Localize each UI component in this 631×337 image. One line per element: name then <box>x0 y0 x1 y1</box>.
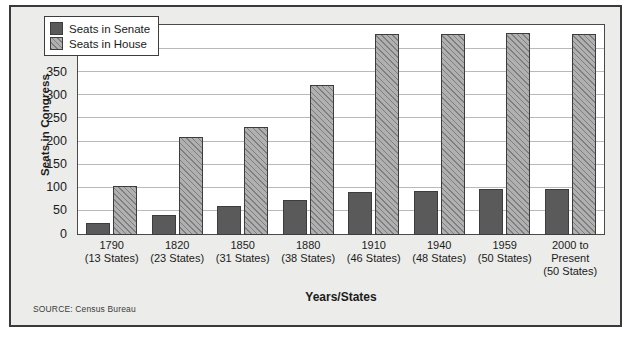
x-axis-tick-label-line: 2000 to <box>538 239 604 252</box>
x-axis-tick-label-line: 1850 <box>210 239 276 252</box>
x-axis-title: Years/States <box>77 290 605 304</box>
x-axis-tick-labels: 1790(13 States)1820(23 States)1850(31 St… <box>77 239 605 278</box>
chart-card: Seats in Congress 4504003503002502001501… <box>9 5 622 327</box>
x-axis-tick-label-line: (48 States) <box>407 252 473 265</box>
y-axis-tick-label: 350 <box>46 65 67 79</box>
bar-house[interactable] <box>179 137 203 235</box>
bar-senate[interactable] <box>86 223 110 235</box>
x-axis-tick-label: 1910(46 States) <box>341 239 407 278</box>
chart-legend: Seats in SenateSeats in House <box>44 16 159 56</box>
x-axis-tick-label-line: (38 States) <box>276 252 342 265</box>
bar-senate[interactable] <box>414 191 438 235</box>
y-axis-tick-label: 100 <box>46 180 67 194</box>
x-axis-tick-label: 1790(13 States) <box>79 239 145 278</box>
bar-senate[interactable] <box>217 206 241 235</box>
y-axis-tick-label: 150 <box>46 157 67 171</box>
x-axis-tick-label-line: (23 States) <box>145 252 211 265</box>
bar-house[interactable] <box>310 85 334 235</box>
x-axis-tick-label-line: (50 States) <box>538 265 604 278</box>
legend-item[interactable]: Seats in House <box>50 36 150 51</box>
y-axis-tick-label: 250 <box>46 111 67 125</box>
bar-senate[interactable] <box>152 215 176 235</box>
x-axis-tick-label: 1940(48 States) <box>407 239 473 278</box>
x-axis-tick-label-line: Present <box>538 252 604 265</box>
x-axis-tick-label: 1820(23 States) <box>145 239 211 278</box>
x-axis-tick-label-line: (13 States) <box>79 252 145 265</box>
bar-senate[interactable] <box>348 192 372 235</box>
x-axis-tick-label: 1959(50 States) <box>472 239 538 278</box>
x-axis-tick-label-line: 1820 <box>145 239 211 252</box>
x-axis-tick-label-line: 1910 <box>341 239 407 252</box>
x-axis-tick-label-line: 1959 <box>472 239 538 252</box>
bar-house[interactable] <box>375 34 399 235</box>
legend-swatch-house-icon <box>50 37 63 50</box>
y-axis-tick-label: 50 <box>53 203 67 217</box>
x-axis-tick-label: 2000 toPresent(50 States) <box>538 239 604 278</box>
chart-screenshot: Seats in Congress 4504003503002502001501… <box>0 0 631 337</box>
legend-item[interactable]: Seats in Senate <box>50 21 150 36</box>
legend-label: Seats in House <box>69 38 147 50</box>
x-axis-tick-label-line: (31 States) <box>210 252 276 265</box>
bar-house[interactable] <box>441 34 465 235</box>
x-axis-tick-label-line: 1880 <box>276 239 342 252</box>
y-axis-tick-label: 0 <box>60 227 67 241</box>
legend-label: Seats in Senate <box>69 23 150 35</box>
bar-senate[interactable] <box>283 200 307 235</box>
source-note: SOURCE: Census Bureau <box>33 304 136 314</box>
x-axis-tick-label-line: 1790 <box>79 239 145 252</box>
legend-swatch-senate-icon <box>50 22 63 35</box>
y-axis-tick-label: 300 <box>46 88 67 102</box>
x-axis-tick-label: 1880(38 States) <box>276 239 342 278</box>
y-axis-tick-label: 200 <box>46 134 67 148</box>
bar-house[interactable] <box>572 34 596 235</box>
bar-house[interactable] <box>113 186 137 235</box>
x-axis-tick-label-line: (50 States) <box>472 252 538 265</box>
bar-house[interactable] <box>244 127 268 235</box>
x-axis-tick-label-line: 1940 <box>407 239 473 252</box>
x-axis-tick-label-line: (46 States) <box>341 252 407 265</box>
bar-senate[interactable] <box>545 189 569 235</box>
bar-senate[interactable] <box>479 189 503 235</box>
x-axis-tick-label: 1850(31 States) <box>210 239 276 278</box>
bar-house[interactable] <box>506 33 530 235</box>
